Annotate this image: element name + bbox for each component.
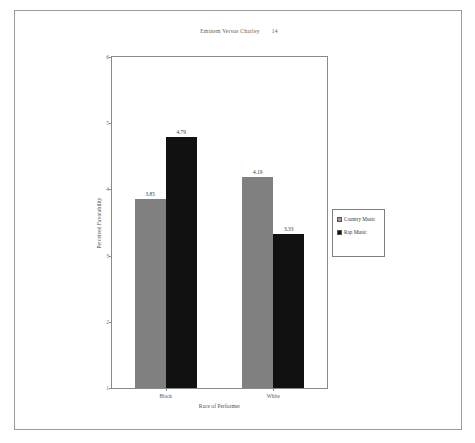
bar-white-rap-music: 3.33 <box>273 234 304 388</box>
y-tick-mark <box>109 57 112 58</box>
x-axis-title: Race of Performer <box>111 403 328 409</box>
y-axis-title: Perceived Favorability <box>93 56 105 389</box>
bar-value-label: 4.19 <box>253 169 262 175</box>
plot-area: 1234563.854.79Black4.193.33White <box>111 56 328 389</box>
y-tick-mark <box>109 123 112 124</box>
x-group-label-black: Black <box>159 393 172 399</box>
legend-item-country-music: Country Music <box>337 216 384 222</box>
y-axis-title-text: Perceived Favorability <box>96 197 102 248</box>
legend-item-rap-music: Rap Music <box>337 229 384 235</box>
y-tick-mark <box>109 256 112 257</box>
bar-value-label: 3.85 <box>146 191 155 197</box>
bar-chart-figure: Perceived Favorability 1234563.854.79Bla… <box>15 11 463 431</box>
document-page: Eminem Versus Charley14 Perceived Favora… <box>14 10 462 430</box>
bar-black-country-music: 3.85 <box>135 199 166 388</box>
y-tick-mark <box>109 322 112 323</box>
bar-black-rap-music: 4.79 <box>166 137 197 388</box>
x-group-label-white: White <box>267 393 280 399</box>
y-tick-mark <box>109 388 112 389</box>
legend-label-rap-music: Rap Music <box>344 229 367 235</box>
x-tick-mark <box>166 388 167 391</box>
bar-value-label: 4.79 <box>177 129 186 135</box>
legend-swatch-country-music-icon <box>337 217 342 222</box>
legend-swatch-rap-music-icon <box>337 230 342 235</box>
chart-legend: Country Music Rap Music <box>332 209 385 257</box>
bar-value-label: 3.33 <box>284 226 293 232</box>
legend-label-country-music: Country Music <box>344 216 375 222</box>
x-tick-mark <box>273 388 274 391</box>
y-tick-mark <box>109 189 112 190</box>
bar-white-country-music: 4.19 <box>242 177 273 388</box>
